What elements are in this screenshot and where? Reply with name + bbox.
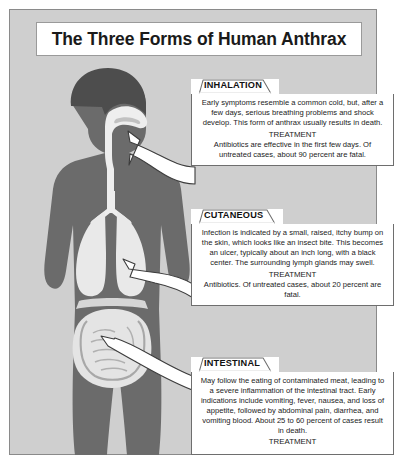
callout-inhalation: INHALATION Early symptoms resemble a com… <box>191 79 394 166</box>
callout-treatment-cutaneous: Antibiotics. Of untreated cases, about 2… <box>199 280 386 300</box>
callout-treatment-heading-cutaneous: TREATMENT <box>199 270 386 280</box>
callout-label-cutaneous: CUTANEOUS <box>204 210 263 220</box>
callout-treatment-inhalation: Antibiotics are effective in the first f… <box>199 140 386 160</box>
poster-title-text: The Three Forms of Human Anthrax <box>52 29 347 50</box>
callout-body-inhalation: Early symptoms resemble a common cold, b… <box>191 94 394 166</box>
callout-body-cutaneous: Infection is indicated by a small, raise… <box>191 224 394 306</box>
anthrax-infographic: The Three Forms of Human Anthrax INHALAT… <box>0 0 394 455</box>
callout-intestinal: INTESTINAL May follow the eating of cont… <box>191 357 394 455</box>
callout-treatment-heading-inhalation: TREATMENT <box>199 130 386 140</box>
callout-tab-inhalation: INHALATION <box>191 79 394 94</box>
callout-description-cutaneous: Infection is indicated by a small, raise… <box>199 228 386 268</box>
poster-title: The Three Forms of Human Anthrax <box>36 22 362 56</box>
callout-label-inhalation: INHALATION <box>204 80 262 90</box>
callout-description-inhalation: Early symptoms resemble a common cold, b… <box>199 98 386 128</box>
callout-label-intestinal: INTESTINAL <box>204 358 260 368</box>
callout-cutaneous: CUTANEOUS Infection is indicated by a sm… <box>191 209 394 306</box>
callout-treatment-heading-intestinal: TREATMENT <box>199 437 386 447</box>
callout-tab-cutaneous: CUTANEOUS <box>191 209 394 224</box>
callout-description-intestinal: May follow the eating of contaminated me… <box>199 376 386 435</box>
callout-tab-intestinal: INTESTINAL <box>191 357 394 372</box>
callout-body-intestinal: May follow the eating of contaminated me… <box>191 372 394 455</box>
